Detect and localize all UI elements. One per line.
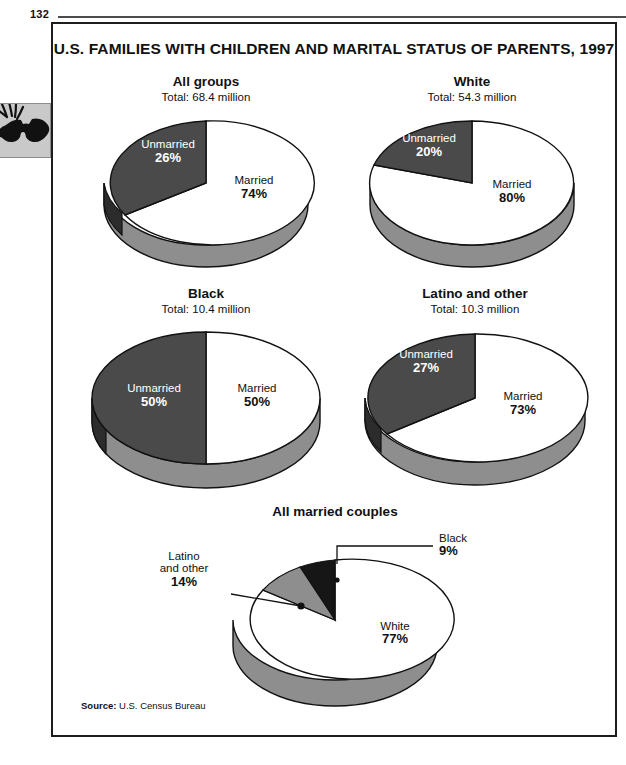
pie-title-all-groups: All groups [71,74,341,90]
source-label: Source: [81,700,116,711]
header-rule [58,16,626,18]
pie-svg-black [86,320,326,480]
pie-title-couples: All married couples [115,504,555,520]
pie-subtitle-latino: Total: 10.3 million [341,303,609,316]
pie-chart-all-married-couples: All married couples Black 9% [115,504,555,704]
pie-chart-black: Black Total: 10.4 million Unmarried 50% … [65,286,347,480]
pie-subtitle-white: Total: 54.3 million [341,91,603,104]
pie-title-white: White [341,74,603,90]
figure-title: U.S. FAMILIES WITH CHILDREN AND MARITAL … [53,40,615,58]
pie-chart-white: White Total: 54.3 million Unmarried 20% … [341,74,603,258]
source-note: Source: U.S. Census Bureau [81,700,206,711]
pie-svg-all-groups [98,108,314,258]
source-value: U.S. Census Bureau [119,700,206,711]
pie-title-latino: Latino and other [341,286,609,302]
pie-title-black: Black [65,286,347,302]
page-number: 132 [30,8,49,20]
pie-subtitle-black: Total: 10.4 million [65,303,347,316]
figure-panel: U.S. FAMILIES WITH CHILDREN AND MARITAL … [51,22,617,737]
pie-subtitle-all-groups: Total: 68.4 million [71,91,341,104]
pie-svg-latino [359,320,591,478]
pie-svg-white [364,108,580,258]
pie-chart-latino: Latino and other Total: 10.3 million Unm… [341,286,609,478]
chapter-tab [0,103,51,158]
pie-chart-all-groups: All groups Total: 68.4 million Unmarried… [71,74,341,258]
pie-svg-couples [115,524,555,704]
